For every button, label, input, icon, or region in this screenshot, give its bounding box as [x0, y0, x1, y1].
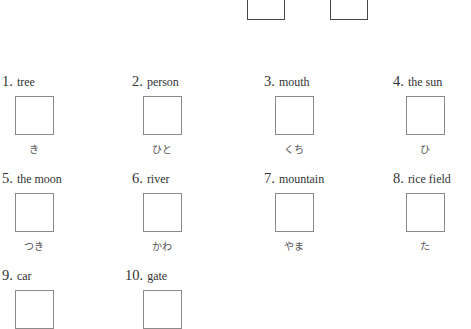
answer-box-top-1[interactable] [247, 0, 285, 20]
kanji-answer-box[interactable] [15, 96, 54, 135]
item-label: 8. rice field [393, 170, 451, 187]
kanji-answer-box[interactable] [406, 96, 445, 135]
kanji-answer-box[interactable] [15, 193, 54, 232]
hiragana-reading: き [4, 141, 64, 156]
kanji-answer-box[interactable] [143, 193, 182, 232]
kanji-answer-box[interactable] [15, 290, 54, 329]
item-label: 1. tree [2, 73, 35, 90]
hiragana-reading: くち [264, 141, 324, 156]
item-label: 10. gate [125, 267, 167, 284]
item-label: 4. the sun [393, 73, 442, 90]
item-label: 9. car [2, 267, 32, 284]
kanji-answer-box[interactable] [406, 193, 445, 232]
item-label: 2. person [132, 73, 179, 90]
hiragana-reading: かわ [132, 238, 192, 253]
kanji-answer-box[interactable] [143, 96, 182, 135]
hiragana-reading: やま [264, 238, 324, 253]
kanji-answer-box[interactable] [275, 193, 314, 232]
item-label: 3. mouth [264, 73, 310, 90]
hiragana-reading: た [395, 238, 455, 253]
hiragana-reading: つき [4, 238, 64, 253]
answer-box-top-2[interactable] [330, 0, 368, 20]
hiragana-reading: ひ [395, 141, 455, 156]
item-label: 7. mountain [264, 170, 324, 187]
item-label: 5. the moon [2, 170, 62, 187]
kanji-answer-box[interactable] [275, 96, 314, 135]
kanji-answer-box[interactable] [143, 290, 182, 329]
hiragana-reading: ひと [132, 141, 192, 156]
item-label: 6. river [132, 170, 170, 187]
